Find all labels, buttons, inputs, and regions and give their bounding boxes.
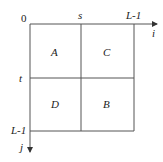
- t-label: t: [19, 72, 23, 84]
- origin-label: 0: [21, 12, 27, 24]
- partition-diagram: 0 s L-1 i t L-1 j A C D B: [0, 0, 163, 162]
- i-end-label: L-1: [125, 9, 141, 21]
- quadrant-b-label: B: [103, 98, 110, 110]
- j-axis-label: j: [18, 141, 23, 153]
- s-label: s: [78, 9, 82, 21]
- i-axis-label: i: [152, 27, 155, 39]
- j-end-label: L-1: [10, 124, 26, 136]
- quadrant-d-label: D: [50, 98, 59, 110]
- quadrant-a-label: A: [50, 46, 58, 58]
- quadrant-c-label: C: [103, 46, 111, 58]
